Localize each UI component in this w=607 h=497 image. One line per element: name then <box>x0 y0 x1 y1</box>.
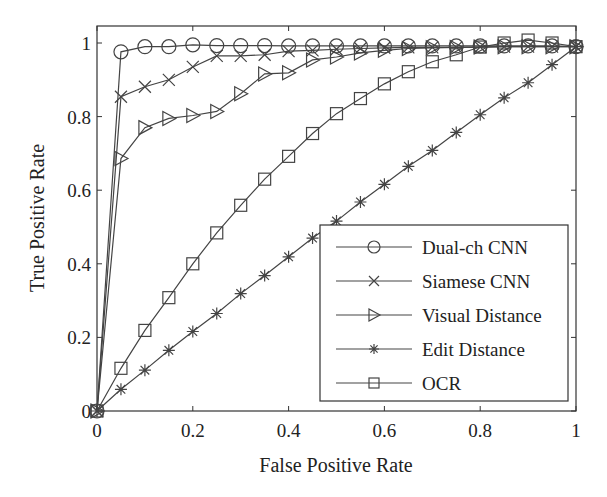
star-marker <box>474 109 486 121</box>
star-marker <box>378 178 390 190</box>
y-tick-label: 0.2 <box>67 327 91 348</box>
star-marker <box>450 126 462 138</box>
star-marker <box>211 307 223 319</box>
star-marker <box>163 344 175 356</box>
legend-label: Visual Distance <box>422 305 542 326</box>
x-tick-label: 1 <box>571 420 581 441</box>
star-marker <box>426 144 438 156</box>
x-axis-title: False Positive Rate <box>259 454 412 476</box>
y-tick-label: 1 <box>82 33 92 54</box>
star-marker <box>354 196 366 208</box>
x-tick-label: 0.8 <box>468 420 492 441</box>
star-marker <box>139 364 151 376</box>
star-marker <box>307 232 319 244</box>
star-marker <box>235 288 247 300</box>
y-tick-label: 0.6 <box>67 180 91 201</box>
y-tick-label: 0.4 <box>67 254 91 275</box>
x-tick-label: 0 <box>92 420 102 441</box>
star-marker <box>546 59 558 71</box>
x-tick-label: 0.2 <box>181 420 205 441</box>
star-marker <box>369 344 379 354</box>
x-marker <box>187 61 199 73</box>
star-marker <box>283 251 295 263</box>
star-marker <box>402 160 414 172</box>
star-marker <box>259 270 271 282</box>
legend-label: Dual-ch CNN <box>422 237 528 258</box>
x-tick-label: 0.4 <box>277 420 301 441</box>
star-marker <box>187 326 199 338</box>
y-axis-title: True Positive Rate <box>26 144 48 292</box>
legend-label: Edit Distance <box>422 339 525 360</box>
x-marker <box>163 74 175 86</box>
x-marker <box>139 81 151 93</box>
star-marker <box>522 77 534 89</box>
legend-label: Siamese CNN <box>422 271 530 292</box>
legend-label: OCR <box>422 373 461 394</box>
x-tick-label: 0.6 <box>373 420 397 441</box>
roc-chart: 00.20.40.60.81 00.20.40.60.81 False Posi… <box>0 0 607 497</box>
legend: Dual-ch CNNSiamese CNNVisual DistanceEdi… <box>320 225 568 401</box>
star-marker <box>115 383 127 395</box>
star-marker <box>498 92 510 104</box>
y-tick-label: 0.8 <box>67 107 91 128</box>
